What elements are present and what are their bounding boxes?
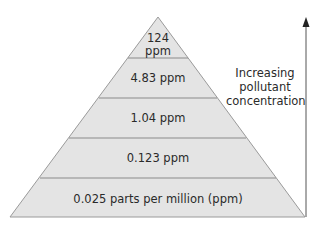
level-5-label: 0.025 parts per million (ppm) — [58, 193, 258, 206]
level-1-unit: ppm — [138, 45, 178, 58]
level-3-label: 1.04 ppm — [108, 112, 208, 125]
level-4-label: 0.123 ppm — [108, 152, 208, 165]
arrow-label-line: pollutant — [226, 80, 304, 94]
arrow-label: Increasing pollutant concentration — [226, 66, 304, 108]
level-2-label: 4.83 ppm — [108, 72, 208, 85]
arrow-label-line: Increasing — [226, 66, 304, 80]
arrow-up-icon — [303, 17, 310, 27]
arrow-label-line: concentration — [226, 94, 304, 108]
level-1-label: 124 ppm — [138, 32, 178, 58]
